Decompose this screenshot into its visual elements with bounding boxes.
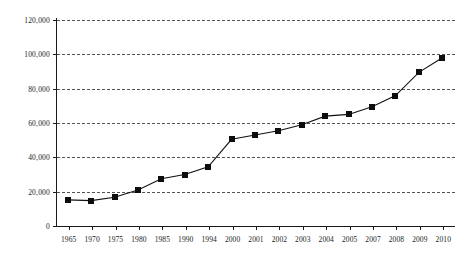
x-tick-label: 1990 <box>178 235 193 244</box>
y-tick-label: 40,000 <box>28 153 50 162</box>
x-tick-2005 <box>350 226 351 230</box>
x-tick-1985 <box>162 226 163 230</box>
series-polyline <box>68 58 443 201</box>
x-tick-1994 <box>209 226 210 230</box>
y-tick-label: 20,000 <box>28 187 50 196</box>
x-tick-1980 <box>139 226 140 230</box>
data-point-marker <box>65 197 71 203</box>
data-point-marker <box>346 111 352 117</box>
x-tick-2009 <box>420 226 421 230</box>
x-tick-label: 1994 <box>201 235 216 244</box>
data-point-marker <box>416 69 422 75</box>
x-tick-label: 2004 <box>319 235 334 244</box>
data-point-marker <box>252 132 258 138</box>
data-point-marker <box>112 194 118 200</box>
x-tick-label: 2000 <box>225 235 240 244</box>
x-tick-2003 <box>303 226 304 230</box>
x-tick-2004 <box>326 226 327 230</box>
y-tick-0 <box>53 226 57 227</box>
data-point-marker <box>275 128 281 134</box>
data-point-marker <box>205 164 211 170</box>
x-tick-label: 2001 <box>248 235 263 244</box>
x-tick-label: 2003 <box>295 235 310 244</box>
x-tick-label: 2005 <box>342 235 357 244</box>
plot-area: 020,00040,00060,00080,000100,000120,000 … <box>57 20 455 226</box>
x-tick-label: 2008 <box>389 235 404 244</box>
x-tick-label: 1980 <box>131 235 146 244</box>
x-tick-1965 <box>69 226 70 230</box>
x-tick-1975 <box>116 226 117 230</box>
x-tick-label: 2007 <box>365 235 380 244</box>
x-tick-1990 <box>186 226 187 230</box>
x-tick-label: 2009 <box>412 235 427 244</box>
data-point-marker <box>182 172 188 178</box>
x-tick-label: 1985 <box>155 235 170 244</box>
data-point-marker <box>135 187 141 193</box>
x-tick-label: 1965 <box>61 235 76 244</box>
data-point-marker <box>392 93 398 99</box>
data-point-marker <box>322 113 328 119</box>
chart-screenshot: 020,00040,00060,00080,000100,000120,000 … <box>0 0 467 255</box>
data-point-marker <box>229 136 235 142</box>
x-tick-2000 <box>233 226 234 230</box>
data-point-marker <box>88 198 94 204</box>
x-tick-2007 <box>373 226 374 230</box>
x-tick-2002 <box>279 226 280 230</box>
y-tick-label: 0 <box>46 222 50 231</box>
x-tick-2001 <box>256 226 257 230</box>
x-tick-1970 <box>92 226 93 230</box>
x-tick-label: 2010 <box>436 235 451 244</box>
x-tick-2010 <box>443 226 444 230</box>
y-tick-label: 100,000 <box>24 50 50 59</box>
data-point-marker <box>299 122 305 128</box>
y-tick-label: 80,000 <box>28 84 50 93</box>
data-point-marker <box>158 176 164 182</box>
x-tick-label: 1975 <box>108 235 123 244</box>
x-tick-label: 1970 <box>84 235 99 244</box>
x-tick-label: 2002 <box>272 235 287 244</box>
y-tick-label: 120,000 <box>24 16 50 25</box>
x-tick-2008 <box>396 226 397 230</box>
data-point-marker <box>369 104 375 110</box>
data-point-marker <box>439 55 445 61</box>
y-tick-label: 60,000 <box>28 119 50 128</box>
